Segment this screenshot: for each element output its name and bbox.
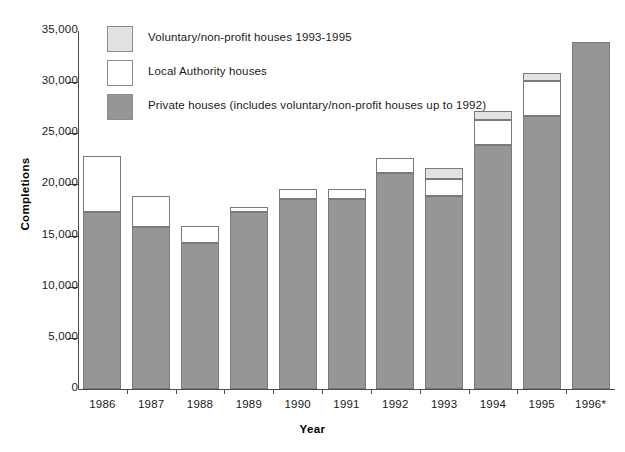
- bar-segment: [230, 212, 268, 389]
- legend-swatch-icon: [107, 26, 133, 52]
- x-axis-tick-mark: [224, 389, 225, 394]
- bar-segment: [474, 145, 512, 389]
- bar-segment: [132, 196, 170, 227]
- x-axis-tick-mark: [371, 389, 372, 394]
- legend-swatch-icon: [107, 60, 133, 86]
- x-axis-tick-mark: [420, 389, 421, 394]
- bar-segment: [474, 111, 512, 120]
- bar-segment: [572, 42, 610, 389]
- bar-segment: [328, 189, 366, 199]
- y-axis-tick-label: 25,000: [24, 125, 78, 137]
- bar-1990: [279, 31, 317, 389]
- bar-segment: [181, 243, 219, 389]
- y-axis-tick: 30,000: [0, 82, 78, 83]
- y-axis-tick: 5,000: [0, 338, 78, 339]
- x-axis-tick-mark: [469, 389, 470, 394]
- bar-1996: [572, 31, 610, 389]
- bar-1993: [425, 31, 463, 389]
- bar-segment: [132, 227, 170, 389]
- x-axis-tick-mark: [322, 389, 323, 394]
- y-axis-tick-label: 5,000: [24, 330, 78, 342]
- legend-item-label: Local Authority houses: [148, 65, 267, 77]
- bar-segment: [83, 156, 121, 212]
- bar-segment: [523, 73, 561, 81]
- y-axis-tick: 15,000: [0, 236, 78, 237]
- x-axis-tick-label: 1996*: [561, 398, 621, 410]
- x-axis-title: Year: [0, 423, 625, 435]
- bar-segment: [376, 173, 414, 389]
- bar-segment: [425, 168, 463, 179]
- x-axis-tick-mark: [566, 389, 567, 394]
- y-axis-line: [78, 31, 79, 389]
- y-axis-tick: 25,000: [0, 133, 78, 134]
- x-axis-tick-mark: [517, 389, 518, 394]
- bar-segment: [523, 116, 561, 389]
- y-axis-tick-label: 10,000: [24, 279, 78, 291]
- bar-segment: [181, 226, 219, 243]
- bar-segment: [279, 189, 317, 199]
- y-axis-tick-label: 15,000: [24, 228, 78, 240]
- y-axis-tick: 20,000: [0, 184, 78, 185]
- bar-segment: [376, 158, 414, 173]
- bar-segment: [328, 199, 366, 389]
- bar-segment: [83, 212, 121, 389]
- bar-1988: [181, 31, 219, 389]
- y-axis-tick: 0: [0, 389, 78, 390]
- y-axis-tick-label: 35,000: [24, 23, 78, 35]
- bar-1994: [474, 31, 512, 389]
- y-axis-tick-label: 20,000: [24, 176, 78, 188]
- bar-1987: [132, 31, 170, 389]
- bar-segment: [474, 120, 512, 145]
- legend-swatch-icon: [107, 94, 133, 120]
- bar-segment: [279, 199, 317, 389]
- bar-1995: [523, 31, 561, 389]
- bar-1992: [376, 31, 414, 389]
- bar-1991: [328, 31, 366, 389]
- x-axis-tick-mark: [127, 389, 128, 394]
- y-axis-tick: 35,000: [0, 31, 78, 32]
- bar-segment: [523, 81, 561, 116]
- x-axis-line: [78, 389, 615, 390]
- y-axis-tick-label: 0: [24, 381, 78, 393]
- legend-item-label: Voluntary/non-profit houses 1993-1995: [148, 31, 352, 43]
- x-axis-tick-mark: [176, 389, 177, 394]
- bar-1989: [230, 31, 268, 389]
- y-axis-tick-label: 30,000: [24, 74, 78, 86]
- legend-item-label: Private houses (includes voluntary/non-p…: [148, 99, 486, 111]
- x-axis-tick-mark: [273, 389, 274, 394]
- bar-segment: [425, 196, 463, 389]
- bar-chart: Completions Year 35,00030,00025,00020,00…: [0, 0, 625, 452]
- bar-segment: [230, 207, 268, 212]
- y-axis-tick: 10,000: [0, 287, 78, 288]
- bar-segment: [425, 179, 463, 195]
